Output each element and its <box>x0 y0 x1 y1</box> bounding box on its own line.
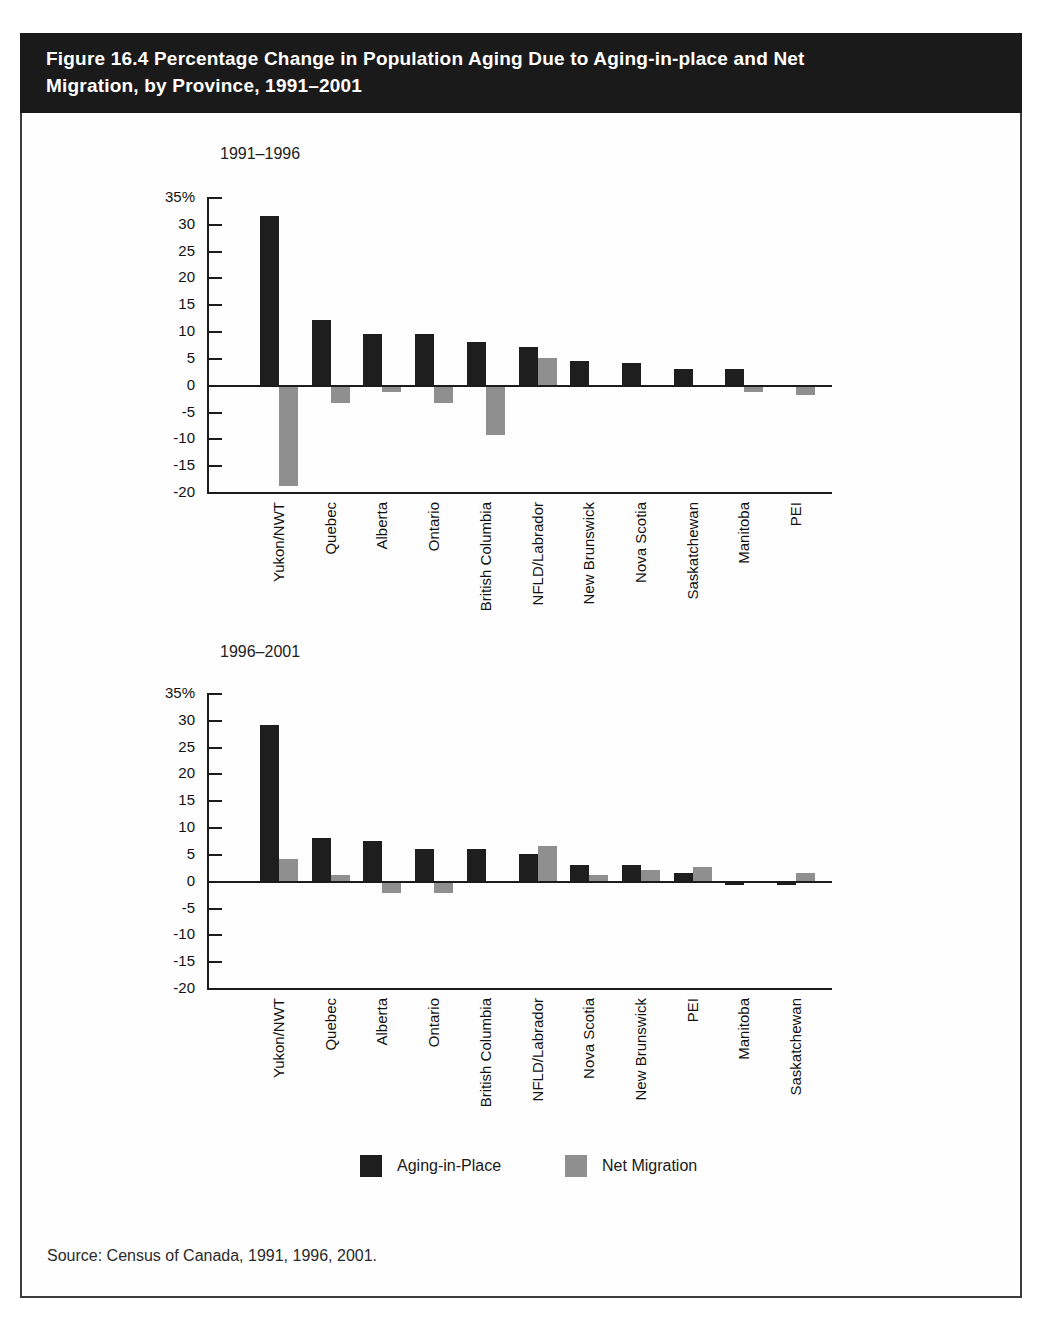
y-tick <box>207 304 222 306</box>
y-tick-label: -20 <box>145 482 195 502</box>
chart-subtitle-1991-1996: 1991–1996 <box>220 145 300 163</box>
y-tick-label: 0 <box>145 375 195 395</box>
y-tick <box>207 693 222 695</box>
bar-aging-in-place-ontario <box>415 849 434 881</box>
y-tick-label: 15 <box>145 790 195 810</box>
x-label-quebec: Quebec <box>322 502 340 555</box>
y-tick-label: -15 <box>145 455 195 475</box>
y-tick-label: 35% <box>145 683 195 703</box>
zero-line <box>207 385 832 387</box>
bar-aging-in-place-nfld-labrador <box>519 347 538 385</box>
x-label-british-columbia: British Columbia <box>477 502 495 611</box>
y-tick-label: -20 <box>145 978 195 998</box>
y-tick <box>207 465 222 467</box>
bar-aging-in-place-british-columbia <box>467 849 486 881</box>
y-tick-label: 10 <box>145 817 195 837</box>
y-tick-label: 10 <box>145 321 195 341</box>
y-tick <box>207 720 222 722</box>
y-tick <box>207 827 222 829</box>
legend-item-aging-in-place: Aging-in-Place <box>360 1155 501 1177</box>
source-note: Source: Census of Canada, 1991, 1996, 20… <box>47 1247 377 1265</box>
y-tick-label: 20 <box>145 267 195 287</box>
aging-in-place-swatch-icon <box>360 1155 382 1177</box>
bar-net-migration-british-columbia <box>486 387 505 435</box>
legend: Aging-in-Place Net Migration <box>360 1155 697 1177</box>
figure-page: Figure 16.4 Percentage Change in Populat… <box>0 0 1041 1334</box>
x-label-quebec: Quebec <box>322 998 340 1051</box>
y-tick <box>207 331 222 333</box>
x-label-alberta: Alberta <box>373 502 391 550</box>
bar-aging-in-place-manitoba <box>725 369 744 385</box>
y-tick <box>207 908 222 910</box>
bar-net-migration-ontario <box>434 387 453 403</box>
legend-label-net-migration: Net Migration <box>602 1157 697 1175</box>
x-label-nfld-labrador: NFLD/Labrador <box>529 502 547 605</box>
bar-net-migration-pei <box>796 387 815 395</box>
legend-item-net-migration: Net Migration <box>565 1155 697 1177</box>
legend-label-aging-in-place: Aging-in-Place <box>397 1157 501 1175</box>
bar-net-migration-alberta <box>382 387 401 392</box>
y-tick <box>207 747 222 749</box>
bar-net-migration-new-brunswick <box>641 870 660 881</box>
bar-aging-in-place-alberta <box>363 334 382 385</box>
y-tick-label: 30 <box>145 214 195 234</box>
bar-net-migration-nfld-labrador <box>538 358 557 385</box>
bar-aging-in-place-quebec <box>312 838 331 881</box>
x-label-yukon-nwt: Yukon/NWT <box>270 998 288 1078</box>
bar-aging-in-place-saskatchewan <box>674 369 693 385</box>
bar-aging-in-place-pei <box>674 873 693 881</box>
y-tick <box>207 934 222 936</box>
bar-aging-in-place-ontario <box>415 334 434 385</box>
y-axis-line <box>207 197 209 494</box>
y-tick-label: 35% <box>145 187 195 207</box>
chart-1996-2001: 35%302520151050-5-10-15-20Yukon/NWTQuebe… <box>145 693 945 1138</box>
x-label-ontario: Ontario <box>425 998 443 1047</box>
y-tick <box>207 854 222 856</box>
bar-aging-in-place-yukon-nwt <box>260 216 279 385</box>
y-tick <box>207 277 222 279</box>
bar-net-migration-saskatchewan <box>796 873 815 881</box>
bar-net-migration-manitoba <box>744 387 763 392</box>
y-tick-label: 5 <box>145 348 195 368</box>
y-tick <box>207 961 222 963</box>
y-tick <box>207 773 222 775</box>
y-tick <box>207 438 222 440</box>
y-tick-label: 20 <box>145 763 195 783</box>
bar-net-migration-quebec <box>331 387 350 403</box>
figure-frame: Figure 16.4 Percentage Change in Populat… <box>20 33 1022 1298</box>
x-label-saskatchewan: Saskatchewan <box>684 502 702 600</box>
y-tick-label: 15 <box>145 294 195 314</box>
y-tick <box>207 412 222 414</box>
net-migration-swatch-icon <box>565 1155 587 1177</box>
bar-aging-in-place-nova-scotia <box>570 865 589 881</box>
x-label-pei: PEI <box>684 998 702 1022</box>
bar-aging-in-place-manitoba <box>725 883 744 886</box>
y-tick-label: -5 <box>145 898 195 918</box>
x-label-manitoba: Manitoba <box>735 502 753 564</box>
y-tick <box>207 800 222 802</box>
x-label-ontario: Ontario <box>425 502 443 551</box>
bar-aging-in-place-british-columbia <box>467 342 486 385</box>
bar-aging-in-place-new-brunswick <box>570 361 589 385</box>
bar-net-migration-pei <box>693 867 712 880</box>
chart-subtitle-1996-2001: 1996–2001 <box>220 643 300 661</box>
x-label-nova-scotia: Nova Scotia <box>580 998 598 1079</box>
y-tick-label: -5 <box>145 402 195 422</box>
bar-net-migration-nfld-labrador <box>538 846 557 881</box>
x-label-saskatchewan: Saskatchewan <box>787 998 805 1096</box>
bar-net-migration-yukon-nwt <box>279 859 298 880</box>
x-label-yukon-nwt: Yukon/NWT <box>270 502 288 582</box>
figure-title-line-1: Figure 16.4 Percentage Change in Populat… <box>46 45 998 72</box>
bar-aging-in-place-saskatchewan <box>777 883 796 886</box>
y-tick-label: -15 <box>145 951 195 971</box>
bar-aging-in-place-alberta <box>363 841 382 881</box>
bar-aging-in-place-nova-scotia <box>622 363 641 384</box>
y-tick-label: -10 <box>145 924 195 944</box>
x-label-new-brunswick: New Brunswick <box>580 502 598 605</box>
x-label-pei: PEI <box>787 502 805 526</box>
bar-aging-in-place-new-brunswick <box>622 865 641 881</box>
y-tick-label: 25 <box>145 737 195 757</box>
x-label-alberta: Alberta <box>373 998 391 1046</box>
x-label-nfld-labrador: NFLD/Labrador <box>529 998 547 1101</box>
figure-title-bar: Figure 16.4 Percentage Change in Populat… <box>20 33 1022 113</box>
